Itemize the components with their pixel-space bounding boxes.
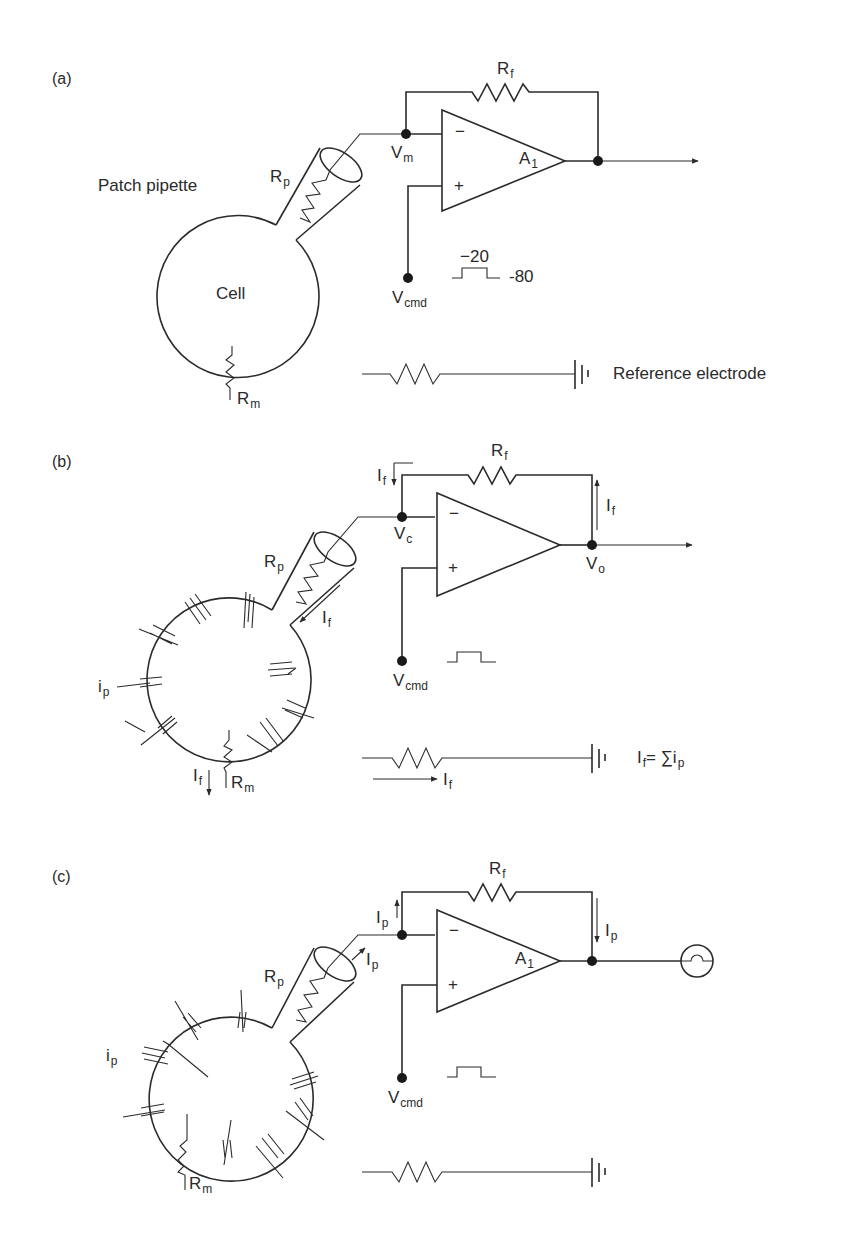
cell-membrane bbox=[149, 1017, 313, 1181]
panel-c-tag: (c) bbox=[52, 868, 71, 886]
step-low-label: -80 bbox=[509, 268, 534, 285]
panel-b-tag: (b) bbox=[52, 453, 72, 471]
reference-resistor bbox=[362, 748, 592, 768]
rf-label: Rf bbox=[489, 860, 506, 880]
command-step-icon bbox=[452, 268, 500, 278]
rp-resistor bbox=[296, 935, 402, 1022]
ground-electrode-icon bbox=[592, 1158, 605, 1187]
amp-a1-label: A1 bbox=[515, 950, 534, 970]
if-label-reference: If bbox=[443, 771, 452, 791]
plus-input-label: + bbox=[454, 177, 464, 194]
command-step-icon bbox=[447, 1067, 496, 1077]
rp-label: Rp bbox=[270, 168, 290, 188]
rm-resistor bbox=[178, 1114, 187, 1190]
Ip-label-top: Ip bbox=[376, 909, 388, 929]
panel-a-tag: (a) bbox=[52, 70, 72, 88]
pipette-opening bbox=[314, 141, 367, 188]
rm-label: Rm bbox=[237, 390, 260, 410]
rm-resistor bbox=[226, 346, 234, 400]
oscilloscope-icon bbox=[681, 945, 713, 977]
if-label-top: If bbox=[377, 467, 386, 487]
patch-pipette bbox=[272, 948, 354, 1042]
Ip-label-pipette: Ip bbox=[366, 951, 378, 971]
reference-electrode-label: Reference electrode bbox=[613, 365, 766, 382]
pipette-opening bbox=[308, 525, 361, 572]
rm-label: Rm bbox=[231, 774, 254, 794]
rp-label: Rp bbox=[264, 553, 284, 573]
patch-pipette bbox=[272, 532, 354, 625]
rf-label: Rf bbox=[491, 442, 508, 462]
Ip-label-feedback: Ip bbox=[605, 922, 617, 942]
rf-resistor bbox=[402, 467, 592, 545]
ion-channels bbox=[117, 592, 314, 752]
minus-input-label: − bbox=[455, 123, 465, 140]
ip-label: ip bbox=[98, 678, 109, 698]
plus-input-label: + bbox=[448, 976, 458, 993]
rf-resistor bbox=[406, 84, 598, 161]
if-label-rm: If bbox=[193, 767, 202, 787]
patch-pipette-label: Patch pipette bbox=[98, 177, 197, 194]
rf-label: Rf bbox=[497, 60, 514, 80]
plus-input-label: + bbox=[448, 559, 458, 576]
vcmd-label: Vcmd bbox=[388, 1089, 423, 1109]
ip-label: ip bbox=[106, 1047, 117, 1067]
rf-resistor bbox=[402, 884, 592, 961]
vc-label: Vc bbox=[394, 525, 412, 545]
minus-input-label: − bbox=[449, 505, 459, 522]
vm-label: Vm bbox=[391, 144, 413, 164]
vo-label: Vo bbox=[586, 555, 605, 575]
command-step-icon bbox=[447, 652, 496, 662]
if-label-feedback: If bbox=[606, 497, 615, 517]
cell-label: Cell bbox=[216, 285, 245, 302]
reference-resistor bbox=[362, 364, 575, 384]
ground-electrode-icon bbox=[575, 360, 588, 389]
panel-a-schematic bbox=[157, 84, 698, 400]
rp-resistor bbox=[296, 517, 402, 604]
current-sum-equation: If= ∑ip bbox=[637, 749, 684, 769]
minus-input-label: − bbox=[449, 922, 459, 939]
vcmd-label: Vcmd bbox=[393, 672, 428, 692]
if-label-pipette: If bbox=[322, 609, 331, 629]
ground-electrode-icon bbox=[592, 744, 605, 773]
reference-resistor bbox=[362, 1162, 592, 1182]
step-high-label: −20 bbox=[460, 248, 489, 265]
panel-c-schematic bbox=[123, 884, 713, 1190]
rm-label: Rm bbox=[189, 1175, 212, 1195]
vcmd-label: Vcmd bbox=[392, 289, 427, 309]
pipette-opening bbox=[308, 940, 361, 987]
rp-label: Rp bbox=[264, 968, 284, 988]
amp-a1-label: A1 bbox=[519, 150, 538, 170]
